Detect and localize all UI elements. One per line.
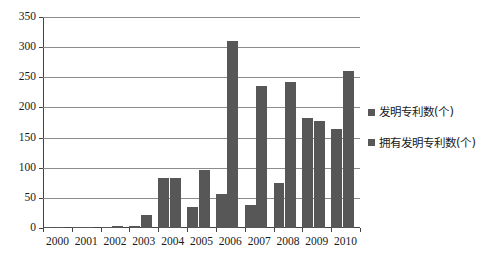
bar <box>343 71 354 228</box>
bar-group <box>101 17 130 228</box>
bar-chart: 050100150200250300350 200020012002200320… <box>0 0 488 275</box>
x-axis-tick <box>245 228 246 232</box>
bar <box>216 194 227 228</box>
y-axis-tick-label: 50 <box>25 192 37 204</box>
bar <box>55 227 66 228</box>
x-axis-tick <box>158 228 159 232</box>
bar-group <box>245 17 274 228</box>
x-axis-tick-label: 2000 <box>46 236 69 248</box>
bar-group <box>129 17 158 228</box>
legend-label: 发明专利数(个) <box>379 106 454 119</box>
plot-area: 050100150200250300350 200020012002200320… <box>43 17 360 228</box>
bar <box>43 227 54 228</box>
x-axis-tick-label: 2005 <box>190 236 213 248</box>
x-axis-tick-label: 2006 <box>219 236 242 248</box>
bar <box>331 129 342 228</box>
bar <box>227 41 238 228</box>
x-axis-tick <box>43 228 44 232</box>
y-axis-tick-label: 200 <box>19 102 36 114</box>
legend-label: 拥有发明专利数(个) <box>379 137 476 150</box>
x-axis-tick <box>129 228 130 232</box>
legend-item: 发明专利数(个) <box>368 106 486 119</box>
bar <box>302 118 313 228</box>
x-axis-tick <box>101 228 102 232</box>
x-axis-tick-label: 2007 <box>248 236 271 248</box>
bar-group <box>43 17 72 228</box>
y-axis-tick-label: 0 <box>30 222 36 234</box>
bar-group <box>331 17 360 228</box>
x-axis-tick-label: 2001 <box>75 236 98 248</box>
bar-group <box>158 17 187 228</box>
x-axis-tick-label: 2003 <box>132 236 155 248</box>
legend-swatch-icon <box>368 109 375 116</box>
y-axis-tick-label: 300 <box>19 41 36 53</box>
x-axis-tick <box>216 228 217 232</box>
x-axis-tick <box>302 228 303 232</box>
x-axis-tick <box>274 228 275 232</box>
bar <box>199 170 210 228</box>
bar <box>314 121 325 228</box>
x-axis-tick <box>331 228 332 232</box>
x-axis-tick-label: 2004 <box>161 236 184 248</box>
x-axis-tick-label: 2009 <box>305 236 328 248</box>
bar <box>158 178 169 228</box>
legend-item: 拥有发明专利数(个) <box>368 137 486 150</box>
bar-group <box>274 17 303 228</box>
x-axis-tick <box>360 228 361 232</box>
x-axis-tick <box>187 228 188 232</box>
y-axis-tick-label: 100 <box>19 162 36 174</box>
bar-group <box>72 17 101 228</box>
bar-group <box>216 17 245 228</box>
x-axis-tick <box>72 228 73 232</box>
bar-group <box>187 17 216 228</box>
x-axis-tick-label: 2010 <box>334 236 357 248</box>
bars-layer <box>43 17 360 228</box>
bar <box>274 183 285 228</box>
bar <box>72 227 83 228</box>
bar <box>170 178 181 228</box>
bar <box>83 227 94 228</box>
y-axis-tick-label: 350 <box>19 11 36 23</box>
bar <box>256 86 267 228</box>
bar <box>101 227 112 228</box>
legend-swatch-icon <box>368 139 375 146</box>
y-axis-tick-label: 150 <box>19 132 36 144</box>
bar <box>245 205 256 228</box>
bar <box>187 207 198 228</box>
x-axis-tick-label: 2008 <box>276 236 299 248</box>
bar <box>112 226 123 228</box>
legend: 发明专利数(个)拥有发明专利数(个) <box>368 106 486 167</box>
y-axis-tick-label: 250 <box>19 72 36 84</box>
bar <box>141 215 152 228</box>
x-axis-tick-label: 2002 <box>104 236 127 248</box>
bar <box>285 82 296 228</box>
bar-group <box>302 17 331 228</box>
bar <box>129 226 140 228</box>
